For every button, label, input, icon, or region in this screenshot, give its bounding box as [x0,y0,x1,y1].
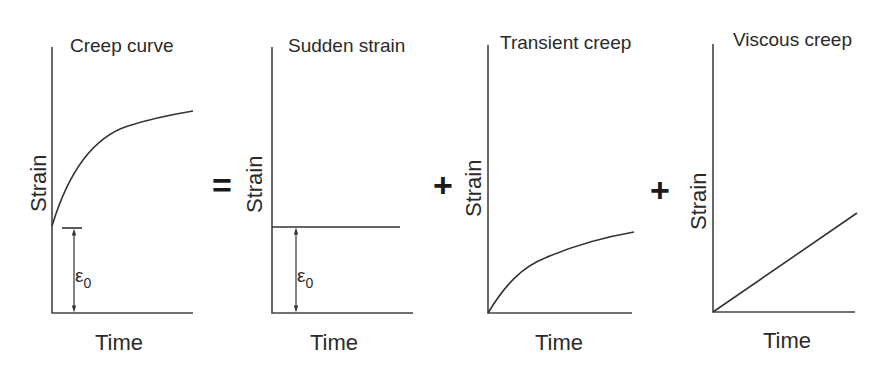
x-axis-label: Time [535,330,583,355]
panel-title: Transient creep [500,32,631,53]
equals-operator: = [212,166,232,204]
x-axis-label: Time [95,330,143,355]
x-axis-label: Time [763,328,811,353]
panel-transient-creep: Transient creep Strain Time [461,32,634,355]
x-axis-label: Time [310,330,358,355]
plus-operator-2: + [650,171,670,209]
panel-viscous-creep: Viscous creep Strain Time [686,29,857,353]
viscous-creep-line [713,213,857,312]
plus-operator-1: + [433,166,453,204]
panel-title: Sudden strain [288,35,405,56]
creep-curve-line [52,111,193,226]
panel-title: Viscous creep [733,29,852,50]
epsilon-label: ε0 [297,265,313,291]
y-axis-label: Strain [686,173,711,230]
y-axis-label: Strain [26,155,51,212]
creep-decomposition-diagram: Creep curve ε0 Strain Time = Sudden stra… [0,0,885,368]
panel-sudden-strain: Sudden strain ε0 Strain Time [242,35,413,355]
transient-creep-curve [488,232,634,313]
epsilon-label: ε0 [75,265,91,291]
axes [488,45,632,313]
y-axis-label: Strain [461,160,486,217]
panel-creep-curve: Creep curve ε0 Strain Time [26,35,193,355]
panel-title: Creep curve [70,35,174,56]
y-axis-label: Strain [242,156,267,213]
axes [52,47,193,313]
axes [272,47,413,313]
axes [713,44,855,312]
